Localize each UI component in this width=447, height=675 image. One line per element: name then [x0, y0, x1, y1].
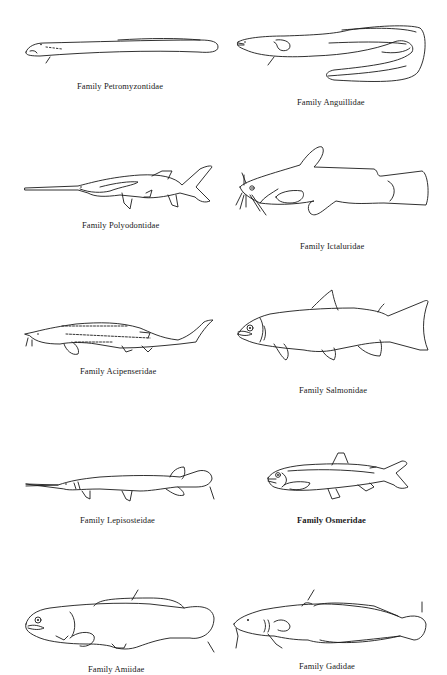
figure-ictaluridae: Family Ictaluridae: [224, 135, 447, 270]
figure-salmonidae: Family Salmonidae: [224, 270, 447, 405]
sturgeon-drawing: [0, 270, 224, 405]
figure-osmeridae: Family Osmeridae: [224, 405, 447, 540]
caption-salmonidae: Family Salmonidae: [299, 385, 367, 395]
figure-lepisosteidae: Family Lepisosteidae: [0, 405, 224, 540]
figure-gadidae: Family Gadidae: [224, 540, 447, 675]
eel-drawing: [224, 0, 447, 135]
caption-gadidae: Family Gadidae: [299, 661, 355, 671]
figure-polyodontidae: Family Polyodontidae: [0, 135, 224, 270]
figure-acipenseridae: Family Acipenseridae: [0, 270, 224, 405]
bowfin-drawing: [0, 540, 224, 675]
caption-amiidae: Family Amiidae: [88, 664, 144, 674]
figure-anguillidae: Family Anguillidae: [224, 0, 447, 135]
paddlefish-drawing: [0, 135, 224, 270]
lamprey-drawing: [0, 0, 224, 135]
caption-petromyzontidae: Family Petromyzontidae: [77, 81, 163, 91]
caption-anguillidae: Family Anguillidae: [297, 97, 365, 107]
caption-polyodontidae: Family Polyodontidae: [82, 220, 159, 230]
caption-lepisosteidae: Family Lepisosteidae: [80, 515, 155, 525]
figure-amiidae: Family Amiidae: [0, 540, 224, 675]
figure-petromyzontidae: Family Petromyzontidae: [0, 0, 224, 135]
caption-osmeridae: Family Osmeridae: [297, 515, 366, 525]
caption-acipenseridae: Family Acipenseridae: [80, 366, 156, 376]
burbot-drawing: [224, 540, 447, 675]
caption-ictaluridae: Family Ictaluridae: [300, 241, 364, 251]
